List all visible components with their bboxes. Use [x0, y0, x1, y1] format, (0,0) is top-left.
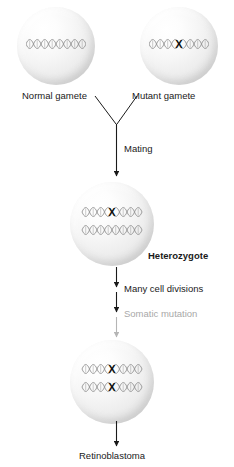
diagram-canvas: X Normal gamete Mutant gamete Mat [0, 0, 234, 467]
label-retinoblastoma: Retinoblastoma [79, 450, 145, 461]
label-mating: Mating [124, 143, 153, 154]
label-normal-gamete: Normal gamete [22, 90, 87, 101]
label-somatic-mutation: Somatic mutation [124, 308, 197, 319]
label-heterozygote: Heterozygote [148, 250, 208, 261]
label-mutant-gamete: Mutant gamete [132, 90, 195, 101]
label-many-cell-divisions: Many cell divisions [124, 283, 203, 294]
flow-mating [0, 0, 234, 467]
